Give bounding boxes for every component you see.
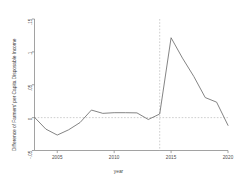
chart-container: -.050.05.1.15 2005201020152020 Differenc…	[0, 0, 237, 182]
x-tick-label: 2020	[214, 155, 237, 160]
data-series-line	[35, 38, 229, 135]
reference-lines	[35, 19, 229, 151]
y-axis-title: Difference of Farmers' per Capita Dispos…	[12, 38, 17, 150]
plot-axes	[35, 19, 229, 151]
x-tick-label: 2005	[43, 155, 71, 160]
x-tick-label: 2010	[100, 155, 128, 160]
y-tick-label: .15	[28, 19, 33, 59]
x-tick-label: 2015	[157, 155, 185, 160]
x-axis-title: year	[0, 169, 237, 174]
